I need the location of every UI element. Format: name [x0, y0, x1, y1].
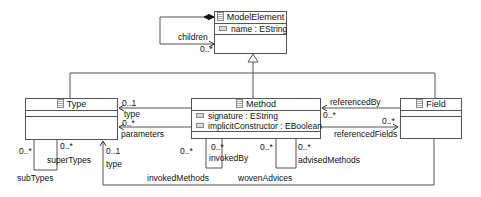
class-type[interactable]: Type: [25, 98, 118, 140]
role-parameters: parameters: [121, 130, 164, 139]
role-invoked-methods: invokedMethods: [147, 174, 209, 183]
class-method[interactable]: Method signature : EString implicitConst…: [191, 98, 321, 139]
composition-diamond-icon: [204, 15, 214, 20]
multiplicity-sub-types: 0..*: [19, 147, 32, 156]
class-field[interactable]: Field: [400, 98, 462, 139]
role-children: children: [178, 33, 208, 42]
attribute-icon: [196, 113, 204, 118]
multiplicity-children: 0..*: [200, 45, 213, 54]
class-icon: [416, 99, 423, 108]
role-referenced-by: referencedBy: [330, 98, 381, 107]
role-sub-types: subTypes: [17, 174, 53, 183]
multiplicity-method-type: 0..1: [122, 99, 136, 108]
multiplicity-invoked-by: 0..*: [211, 143, 224, 152]
class-name: Type: [67, 99, 87, 109]
role-field-type: type: [106, 160, 122, 169]
attribute-compartment: [26, 111, 117, 117]
multiplicity-referenced-by: 0..*: [323, 111, 336, 120]
multiplicity-referenced-fields: 0..*: [382, 117, 395, 126]
attribute-compartment: [401, 111, 461, 117]
class-icon: [217, 12, 224, 21]
role-woven-advices: wovenAdvices: [238, 174, 292, 183]
attribute-name: implicitConstructor : EBoolean: [208, 121, 322, 131]
generalization-triangle-icon: [248, 54, 258, 62]
class-name: Field: [426, 99, 446, 109]
attribute-name: signature : EString: [208, 111, 278, 121]
attribute-icon: [196, 123, 204, 128]
class-icon: [236, 99, 243, 108]
attribute-icon: [219, 26, 227, 31]
method-advice-loop: [276, 138, 296, 168]
multiplicity-advised-methods: 0..*: [298, 143, 311, 152]
multiplicity-parameters: 0..*: [122, 119, 135, 128]
role-super-types: superTypes: [47, 156, 91, 165]
role-referenced-fields: referencedFields: [334, 130, 397, 139]
class-icon: [57, 99, 64, 108]
class-name: ModelElement: [227, 12, 285, 22]
role-advised-methods: advisedMethods: [298, 156, 360, 165]
multiplicity-super-types: 0..*: [60, 142, 73, 151]
multiplicity-woven-advices: 0..*: [260, 143, 273, 152]
role-invoked-by: invokedBy: [209, 154, 248, 163]
multiplicity-field-type: 0..1: [106, 147, 120, 156]
class-model-element[interactable]: ModelElement name : EString: [214, 11, 287, 54]
class-name: Method: [246, 99, 276, 109]
multiplicity-invoked-methods: 0..*: [180, 147, 193, 156]
attribute-name: name : EString: [231, 24, 287, 34]
